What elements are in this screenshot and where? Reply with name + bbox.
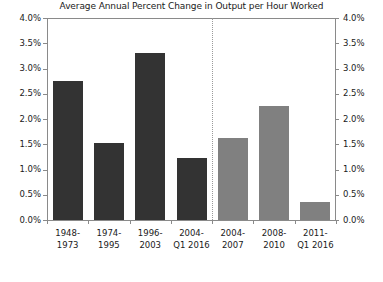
y-axis-right-label: 1.5% <box>343 140 365 149</box>
bar <box>218 138 248 220</box>
y-axis-left-tick <box>43 144 47 145</box>
y-axis-left-label: 2.0% <box>19 115 41 124</box>
y-axis-right-label: 0.0% <box>343 216 365 225</box>
y-axis-right-label: 1.0% <box>343 165 365 174</box>
x-axis-label: 2004-Q1 2016 <box>171 228 212 251</box>
y-axis-right-label: 0.5% <box>343 190 365 199</box>
bar <box>177 158 207 220</box>
x-axis-tick <box>295 220 296 224</box>
chart-title: Average Annual Percent Change in Output … <box>0 1 383 11</box>
bar <box>300 202 330 220</box>
y-axis-left-tick <box>43 119 47 120</box>
y-axis-right-tick <box>335 144 339 145</box>
y-axis-left-label: 3.0% <box>19 64 41 73</box>
x-axis-tick <box>212 220 213 224</box>
y-axis-right-tick <box>335 195 339 196</box>
x-axis-label: 1974-1995 <box>88 228 129 251</box>
x-axis-tick <box>47 220 48 224</box>
bar <box>135 53 165 220</box>
y-axis-right-tick <box>335 119 339 120</box>
y-axis-right-label: 2.0% <box>343 115 365 124</box>
x-axis-label: 1996-2003 <box>130 228 171 251</box>
x-axis-label: 2004-2007 <box>212 228 253 251</box>
bar <box>53 81 83 220</box>
y-axis-right-label: 4.0% <box>343 14 365 23</box>
y-axis-left <box>47 18 48 220</box>
y-axis-left-tick <box>43 170 47 171</box>
x-axis-tick <box>336 220 337 224</box>
y-axis-left-label: 2.5% <box>19 89 41 98</box>
y-axis-left-tick <box>43 69 47 70</box>
y-axis-left-label: 3.5% <box>19 39 41 48</box>
y-axis-left-tick <box>43 18 47 19</box>
y-axis-left-tick <box>43 43 47 44</box>
x-axis-tick <box>88 220 89 224</box>
x-axis <box>47 220 336 221</box>
y-axis-left-label: 0.0% <box>19 216 41 225</box>
y-axis-left-tick <box>43 195 47 196</box>
x-axis-tick <box>171 220 172 224</box>
y-axis-right-tick <box>335 18 339 19</box>
y-axis-left-label: 0.5% <box>19 190 41 199</box>
y-axis-right-tick <box>335 170 339 171</box>
y-axis-right-tick <box>335 94 339 95</box>
bar <box>259 106 289 220</box>
y-axis-right-tick <box>335 69 339 70</box>
x-axis-label: 1948-1973 <box>47 228 88 251</box>
plot-area: 0.0%0.0%0.5%0.5%1.0%1.0%1.5%1.5%2.0%2.0%… <box>47 18 336 220</box>
plot-frame-top <box>47 18 336 19</box>
x-axis-label: 2008-2010 <box>253 228 294 251</box>
chart-container: Average Annual Percent Change in Output … <box>0 0 383 282</box>
y-axis-right-label: 2.5% <box>343 89 365 98</box>
y-axis-left-label: 1.5% <box>19 140 41 149</box>
y-axis-left-label: 1.0% <box>19 165 41 174</box>
y-axis-right-tick <box>335 43 339 44</box>
y-axis-left-label: 4.0% <box>19 14 41 23</box>
y-axis-left-tick <box>43 94 47 95</box>
x-axis-label: 2011-Q1 2016 <box>295 228 336 251</box>
bar <box>94 143 124 220</box>
x-axis-tick <box>130 220 131 224</box>
x-axis-tick <box>253 220 254 224</box>
y-axis-right-label: 3.0% <box>343 64 365 73</box>
y-axis-right-label: 3.5% <box>343 39 365 48</box>
vertical-divider-annotation <box>212 18 213 220</box>
